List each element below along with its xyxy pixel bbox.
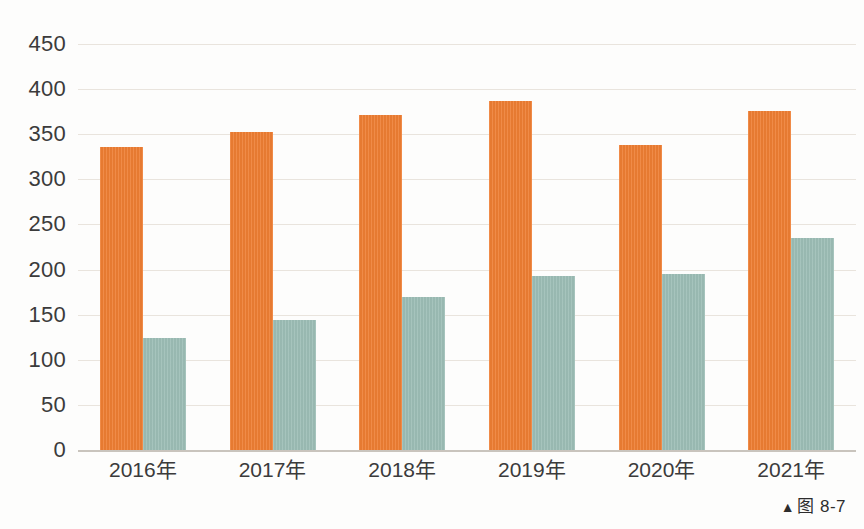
y-axis-tick-label: 0 (0, 439, 66, 461)
y-axis-tick: 0 (0, 439, 66, 461)
y-axis-tick-label: 400 (0, 78, 66, 100)
x-axis-tick-label: 2017年 (208, 457, 338, 482)
y-axis-tick: 100 (0, 349, 66, 371)
y-axis-tick-label: 250 (0, 213, 66, 235)
bar-series-2-2019年 (532, 276, 575, 450)
figure-caption: ▲图 8-7 (781, 492, 846, 517)
y-axis-tick-label: 300 (0, 168, 66, 190)
x-axis-tick-label: 2016年 (78, 457, 208, 482)
y-axis-tick-label: 450 (0, 33, 66, 55)
bar-chart-plot-area: 050100150200250300350400450 2016年2017年20… (0, 0, 864, 529)
y-axis-tick: 450 (0, 33, 66, 55)
y-axis-tick: 50 (0, 394, 66, 416)
gridline (78, 405, 856, 406)
bar-series-2-2017年 (273, 320, 316, 450)
y-axis-tick-label: 150 (0, 304, 66, 326)
bar-series-1-2018年 (359, 115, 402, 450)
bar-series-1-2016年 (100, 147, 143, 450)
bar-series-1-2021年 (748, 111, 791, 450)
y-axis-tick: 350 (0, 123, 66, 145)
y-axis-tick: 400 (0, 78, 66, 100)
figure-container: 050100150200250300350400450 2016年2017年20… (0, 0, 864, 529)
x-axis-tick-label: 2020年 (597, 457, 727, 482)
triangle-marker-icon: ▲ (781, 499, 795, 515)
gridline (78, 44, 856, 45)
y-axis-tick-label: 50 (0, 394, 66, 416)
y-axis-tick: 200 (0, 259, 66, 281)
y-axis-tick-label: 100 (0, 349, 66, 371)
axis-baseline (78, 450, 856, 452)
x-axis-tick-label: 2018年 (337, 457, 467, 482)
figure-caption-text: 图 8-7 (797, 497, 846, 516)
y-axis-tick-label: 200 (0, 259, 66, 281)
gridline (78, 134, 856, 135)
gridline (78, 179, 856, 180)
x-axis-tick-label: 2019年 (467, 457, 597, 482)
bar-series-1-2020年 (619, 145, 662, 450)
bar-series-2-2021年 (791, 238, 834, 450)
y-axis-tick: 250 (0, 213, 66, 235)
y-axis-tick: 300 (0, 168, 66, 190)
bar-series-2-2020年 (662, 274, 705, 450)
gridline (78, 315, 856, 316)
gridline (78, 270, 856, 271)
bar-series-2-2016年 (143, 338, 186, 450)
bar-series-2-2018年 (402, 297, 445, 450)
y-axis-tick-label: 350 (0, 123, 66, 145)
bar-series-1-2017年 (230, 132, 273, 450)
gridline (78, 360, 856, 361)
y-axis-tick: 150 (0, 304, 66, 326)
x-axis-tick-label: 2021年 (726, 457, 856, 482)
bar-series-1-2019年 (489, 101, 532, 450)
gridline (78, 89, 856, 90)
gridline (78, 224, 856, 225)
